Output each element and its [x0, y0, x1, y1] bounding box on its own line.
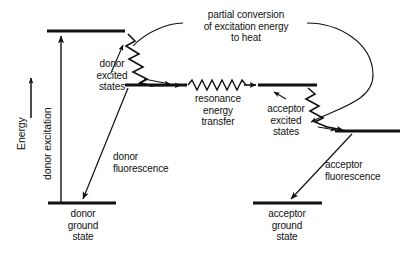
donor-fluorescence-arrow: [83, 88, 128, 199]
figure-canvas: Energy donor excitation donor excited st…: [0, 0, 407, 263]
donor-ground-state-label: donor ground state: [50, 208, 116, 243]
partial-conversion-label: partial conversion of excitation energy …: [186, 9, 306, 44]
donor-excitation-label: donor excitation: [42, 107, 54, 180]
acceptor-fluorescence-label: acceptor fluorescence: [325, 159, 403, 182]
resonance-energy-transfer-zigzag: [188, 80, 246, 90]
leader-acceptor-excited-upper: [274, 92, 286, 99]
figure-caption: [2, 254, 302, 263]
partial-conversion-leader-left: [133, 23, 183, 46]
acceptor-excited-states-label: acceptor excited states: [255, 103, 317, 138]
leader-donor-excited-lower: [144, 79, 170, 84]
acceptor-ground-state-label: acceptor ground state: [252, 208, 322, 243]
donor-fluorescence-label: donor fluorescence: [113, 151, 183, 174]
resonance-energy-transfer-label: resonance energy transfer: [180, 93, 256, 128]
energy-axis-label: Energy: [16, 117, 28, 150]
donor-excited-states-label: donor excited states: [82, 58, 142, 93]
